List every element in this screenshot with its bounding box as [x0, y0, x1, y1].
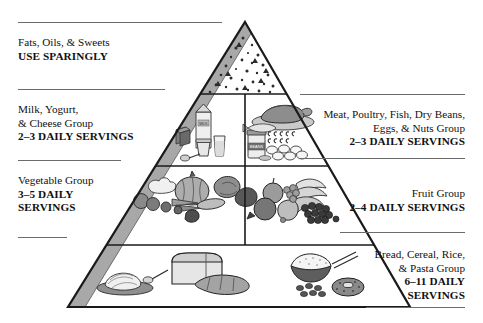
label-vegetable-group: Vegetable Group 3–5 DAILY SERVINGS [18, 174, 94, 215]
label-meat-line2: Eggs, & Nuts Group [323, 122, 465, 136]
food-pyramid-figure: MILK BEANS [0, 0, 483, 323]
label-meat-line1: Meat, Poultry, Fish, Dry Beans, [323, 108, 465, 122]
label-fats-line2: USE SPARINGLY [18, 50, 110, 64]
label-bread-line3: 6–11 DAILY [375, 275, 465, 289]
label-milk-line2: & Cheese Group [18, 117, 134, 131]
label-vegetable-line2: 3–5 DAILY [18, 188, 94, 202]
beans-jar-label: BEANS [250, 144, 264, 149]
leader-rule-meat-top [300, 94, 465, 95]
label-vegetable-line3: SERVINGS [18, 201, 94, 215]
label-bread-line2: & Pasta Group [375, 262, 465, 276]
pyramid-body [68, 22, 410, 307]
leader-rule-fats-top [18, 22, 222, 23]
label-bread-line4: SERVINGS [375, 289, 465, 303]
label-milk-line1: Milk, Yogurt, [18, 103, 134, 117]
leader-rule-milk-bottom [18, 160, 121, 161]
label-bread-line1: Bread, Cereal, Rice, [375, 248, 465, 262]
leader-rule-fats-bottom [18, 89, 165, 90]
milk-carton-label: MILK [199, 122, 208, 126]
leader-rule-vegetable-bottom [18, 237, 67, 238]
label-meat-poultry-fish: Meat, Poultry, Fish, Dry Beans, Eggs, & … [323, 108, 465, 149]
leader-rule-meat-bottom [300, 158, 465, 159]
label-fruit-group: Fruit Group 2–4 DAILY SERVINGS [349, 187, 465, 214]
label-vegetable-line1: Vegetable Group [18, 174, 94, 188]
label-bread-cereal-rice-pasta: Bread, Cereal, Rice, & Pasta Group 6–11 … [375, 248, 465, 302]
leader-rule-fruit-bottom [340, 232, 465, 233]
label-fats-oils-sweets: Fats, Oils, & Sweets USE SPARINGLY [18, 36, 110, 63]
label-fruit-line1: Fruit Group [349, 187, 465, 201]
label-meat-servings: 2–3 DAILY SERVINGS [323, 135, 465, 149]
label-milk-yogurt-cheese: Milk, Yogurt, & Cheese Group 2–3 DAILY S… [18, 103, 134, 144]
label-fruit-servings: 2–4 DAILY SERVINGS [349, 201, 465, 215]
label-milk-servings: 2–3 DAILY SERVINGS [18, 130, 134, 144]
label-fats-line1: Fats, Oils, & Sweets [18, 36, 110, 50]
leader-rule-bread-bottom [366, 307, 465, 308]
